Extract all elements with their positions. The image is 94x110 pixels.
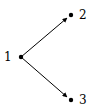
node-3-dot xyxy=(69,98,73,102)
node-1-dot xyxy=(19,55,23,59)
node-1-label: 1 xyxy=(4,50,12,64)
node-2-dot xyxy=(69,13,73,17)
edge-1-3 xyxy=(21,57,67,97)
node-2-label: 2 xyxy=(79,8,87,22)
tree-diagram: 1 2 3 xyxy=(0,0,94,110)
node-3-label: 3 xyxy=(79,93,87,107)
edge-1-2 xyxy=(21,18,67,57)
